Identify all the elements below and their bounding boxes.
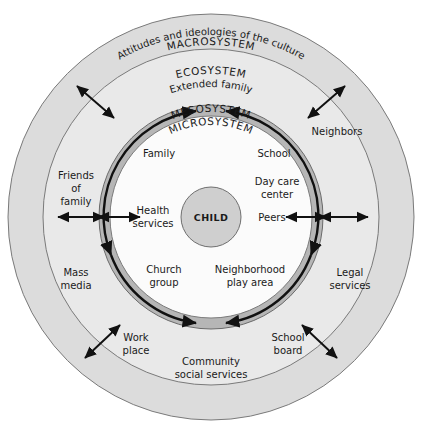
label-friends-of-family-line3: family [61,196,92,207]
diagram-canvas: CHILD MACROSYSTEM Attitudes and ideologi… [0,0,423,431]
label-school-board-line2: board [274,345,303,356]
label-day-care-center-line1: Day care [255,176,300,187]
label-health-services-line2: services [132,218,173,229]
label-day-care-center-line2: center [261,189,294,200]
label-neighbors: Neighbors [312,126,363,137]
label-neighborhood-play-area-line1: Neighborhood [215,264,285,275]
label-school: School [257,148,290,159]
label-mass-media-line1: Mass [63,267,88,278]
label-work-place-line1: Work [123,332,149,343]
label-peers: Peers [258,212,285,223]
label-friends-of-family-line1: Friends [58,170,94,181]
label-family: Family [143,148,175,159]
label-friends-of-family-line2: of [71,183,81,194]
label-community-social-services-line1: Community [182,356,240,367]
label-work-place-line2: place [123,345,150,356]
label-mass-media-line2: media [60,280,91,291]
ecological-systems-diagram: CHILD MACROSYSTEM Attitudes and ideologi… [0,0,423,431]
child-label: CHILD [194,212,228,223]
label-health-services-line1: Health [137,205,170,216]
label-church-group-line1: Church [146,264,181,275]
label-church-group-line2: group [149,277,178,288]
label-legal-services-line2: services [329,280,370,291]
label-community-social-services-line2: social services [175,369,248,380]
child-node: CHILD [181,187,241,247]
label-school-board-line1: School [271,332,304,343]
label-neighborhood-play-area-line2: play area [227,277,274,288]
label-legal-services-line1: Legal [337,267,364,278]
